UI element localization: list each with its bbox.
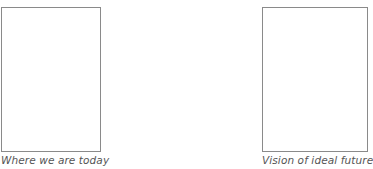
future-state-caption: Vision of ideal future	[262, 154, 373, 167]
current-state-box	[1, 7, 101, 152]
future-state-box	[262, 7, 368, 152]
current-state-caption: Where we are today	[1, 154, 109, 167]
